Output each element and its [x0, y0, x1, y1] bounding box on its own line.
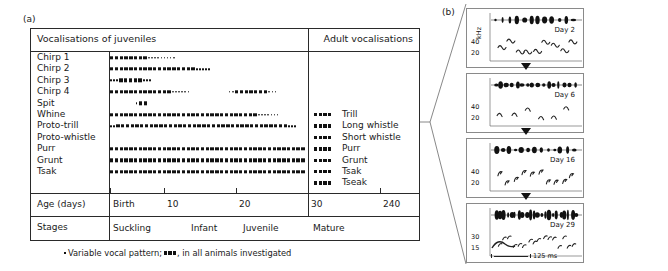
juvenile-duration-track: [110, 63, 306, 74]
row-label-chirp-1: Chirp 1: [37, 52, 70, 63]
timeline-row: Chirp 1: [31, 52, 419, 63]
timeline-rows: Chirp 1Chirp 2Chirp 3Chirp 4SpitWhineTri…: [31, 52, 419, 193]
panel-link-arrow-icon: [521, 193, 531, 200]
y-axis-tick-label: 40: [471, 103, 479, 111]
timeline-row: Chirp 3: [31, 75, 419, 86]
row-label-whine: Whine: [37, 109, 65, 120]
timeline-row: TsakTsak: [31, 166, 419, 177]
row-label-spit: Spit: [37, 98, 54, 109]
panel-link-arrow-icon: [521, 63, 531, 70]
age-tick-mark: [110, 188, 111, 194]
timeline-row: Chirp 4: [31, 86, 419, 97]
adult-label-long-whistle: Long whistle: [342, 120, 398, 131]
duration-segment: [110, 147, 305, 150]
age-tick-mark: [380, 188, 381, 194]
y-axis-tick-label: 20: [471, 49, 479, 57]
timeline-row: Proto-trillLong whistle: [31, 120, 419, 131]
adult-label-short-whistle: Short whistle: [342, 132, 401, 143]
adult-label-tseak: Tseak: [342, 177, 367, 188]
figure-footnote: Variable vocal pattern; , in all animals…: [64, 248, 291, 258]
footnote-suffix-text: , in all animals investigated: [177, 248, 291, 258]
adult-vocalisation-marker: [314, 132, 331, 143]
juvenile-duration-track: [110, 109, 306, 120]
time-scale-bar: 125 ms: [491, 252, 557, 260]
age-tick-mark: [308, 188, 309, 194]
adult-vocalisation-marker: [314, 166, 331, 177]
age-tick-mark: [236, 188, 237, 194]
juvenile-duration-track: [110, 52, 306, 63]
age-tick-label-240: 240: [383, 199, 400, 209]
stages-row-label: Stages: [37, 222, 68, 232]
y-axis-tick-label: 40: [471, 168, 479, 176]
duration-segment: [136, 102, 147, 105]
stage-label-juvenile: Juvenile: [243, 223, 278, 233]
panel-link-arrow-icon: [521, 128, 531, 135]
timeline-row: Tseak: [31, 177, 419, 188]
duration-segment: [110, 170, 305, 173]
age-tick-label-20: 20: [239, 199, 250, 209]
y-axis-tick-label: 30: [471, 233, 479, 241]
panel-connector-lines: [420, 0, 468, 271]
age-tick-label-birth: Birth: [113, 199, 135, 209]
juvenile-duration-track: [110, 177, 306, 188]
duration-segment: [110, 124, 296, 127]
duration-segment: [110, 79, 151, 82]
duration-segment: [110, 90, 189, 93]
stages-row: Stages SucklingInfantJuvenileMature: [31, 217, 419, 241]
timeline-row: PurrPurr: [31, 143, 419, 154]
vocalisation-development-table: Vocalisations of juveniles Adult vocalis…: [30, 28, 420, 241]
row-label-grunt: Grunt: [37, 155, 63, 166]
adult-vocalisation-marker: [314, 177, 331, 188]
juvenile-duration-track: [110, 75, 306, 86]
duration-segment: [110, 67, 210, 70]
timeline-row: WhineTrill: [31, 109, 419, 120]
header-adult-vocalisations: Adult vocalisations: [324, 33, 413, 44]
juvenile-duration-track: [110, 143, 306, 154]
y-axis-tick-label: 15: [471, 244, 479, 252]
adult-label-purr: Purr: [342, 143, 360, 154]
juvenile-duration-track: [110, 155, 306, 166]
row-label-chirp-3: Chirp 3: [37, 75, 70, 86]
duration-segment: [229, 90, 276, 93]
age-tick-label-30: 30: [311, 199, 322, 209]
spectrogram-panel-day-16: Day 164020: [466, 138, 584, 198]
row-label-proto-trill: Proto-trill: [37, 120, 78, 131]
spectrogram-trace: [489, 76, 583, 132]
stage-label-mature: Mature: [313, 223, 345, 233]
spectrogram-trace: [489, 11, 583, 67]
spectrogram-panel-day-2: Day 2kHz4020: [466, 8, 584, 68]
scale-bar-label: 125 ms: [533, 252, 557, 260]
stage-label-suckling: Suckling: [113, 223, 151, 233]
y-axis-tick-label: 20: [471, 179, 479, 187]
row-label-chirp-2: Chirp 2: [37, 63, 70, 74]
footnote-prefix-text: Variable vocal pattern;: [68, 248, 162, 258]
timeline-row: Proto-whistleShort whistle: [31, 132, 419, 143]
duration-segment: [110, 113, 278, 116]
juvenile-duration-track: [110, 120, 306, 131]
adult-vocalisation-marker: [314, 109, 331, 120]
y-axis-tick-label: 40: [471, 38, 479, 46]
adult-label-grunt: Grunt: [342, 155, 368, 166]
spectrogram-trace: [489, 141, 583, 197]
timeline-row: Spit: [31, 98, 419, 109]
juvenile-duration-track: [110, 166, 306, 177]
age-axis-row: Age (days) Birth102030240: [31, 194, 419, 216]
timeline-row: Chirp 2: [31, 63, 419, 74]
row-label-purr: Purr: [37, 143, 55, 154]
juvenile-duration-track: [110, 98, 306, 109]
y-axis-tick-label: 20: [471, 114, 479, 122]
row-label-proto-whistle: Proto-whistle: [37, 132, 96, 143]
juvenile-duration-track: [110, 86, 306, 97]
spectrogram-stack: Day 2kHz4020Day 64020Day 164020Day 29301…: [466, 8, 588, 263]
adult-vocalisation-marker: [314, 120, 331, 131]
duration-segment: [110, 56, 175, 59]
duration-segment: [110, 159, 305, 162]
age-row-label: Age (days): [37, 199, 86, 209]
row-label-chirp-4: Chirp 4: [37, 86, 70, 97]
stage-label-infant: Infant: [191, 223, 217, 233]
adult-vocalisation-marker: [314, 155, 331, 166]
timeline-row: GruntGrunt: [31, 155, 419, 166]
adult-label-trill: Trill: [342, 109, 357, 120]
juvenile-duration-track: [110, 132, 306, 143]
footnote-small-dot-icon: [64, 252, 66, 254]
